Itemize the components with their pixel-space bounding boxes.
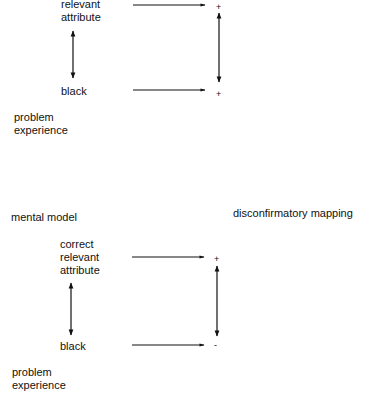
diagram-arrows (0, 0, 380, 403)
